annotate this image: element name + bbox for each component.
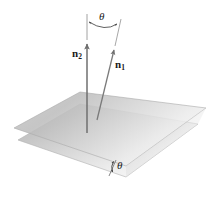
normal-vector-n1-label: n1 (115, 59, 125, 72)
theta-label-bottom: θ (117, 160, 122, 171)
normal-vector-n1-extension (115, 19, 121, 46)
normal-vector-n2-label: n2 (72, 48, 82, 61)
n1-subscript: 1 (121, 63, 125, 72)
theta-label-top: θ (99, 11, 104, 22)
angle-arc-top-path (89, 22, 117, 28)
angle-arc-between-normals (89, 22, 117, 28)
figure-container: θ θ n2 n1 (0, 0, 214, 199)
diagram-canvas (0, 0, 214, 199)
n2-subscript: 2 (78, 52, 82, 61)
